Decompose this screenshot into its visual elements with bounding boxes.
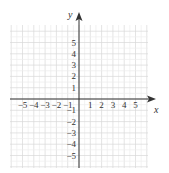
x-tick-label: 3 (111, 100, 116, 110)
y-tick-label: −5 (66, 151, 76, 161)
x-tick-label: −5 (18, 100, 28, 110)
y-tick-label: 3 (72, 60, 77, 70)
y-axis-label: y (67, 9, 73, 20)
y-tick-label: 4 (72, 49, 77, 59)
x-tick-label: −3 (40, 100, 50, 110)
y-tick-label: −4 (66, 139, 76, 149)
y-tick-label: −1 (66, 105, 76, 115)
y-tick-label: 5 (72, 38, 77, 48)
x-tick-label: 1 (88, 100, 93, 110)
y-tick-label: −2 (66, 117, 76, 127)
coordinate-plane: x y −5−4−3−2−112345 54321−1−2−3−4−5 (0, 0, 169, 173)
x-tick-label: −2 (52, 100, 62, 110)
x-axis-label: x (153, 104, 159, 115)
y-tick-label: 2 (72, 71, 77, 81)
y-tick-label: 1 (72, 83, 77, 93)
x-tick-label: 4 (122, 100, 127, 110)
x-tick-label: −4 (29, 100, 39, 110)
y-tick-label: −3 (66, 128, 76, 138)
x-tick-label: 2 (99, 100, 104, 110)
x-tick-label: 5 (133, 100, 138, 110)
